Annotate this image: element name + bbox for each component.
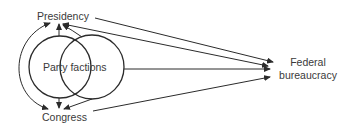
node-congress: Congress — [42, 111, 87, 123]
influence-diagram: Presidency Party factions Congress Feder… — [0, 0, 355, 130]
faction-right-to-congress-arrow — [64, 99, 92, 109]
node-party-factions: Party factions — [43, 61, 107, 73]
node-presidency: Presidency — [37, 10, 89, 22]
node-federal-bureaucracy-line1: Federal — [278, 56, 338, 68]
node-federal-bureaucracy-line2: bureaucracy — [276, 69, 340, 81]
bureaucracy-presidency-double-arrow — [63, 24, 268, 66]
